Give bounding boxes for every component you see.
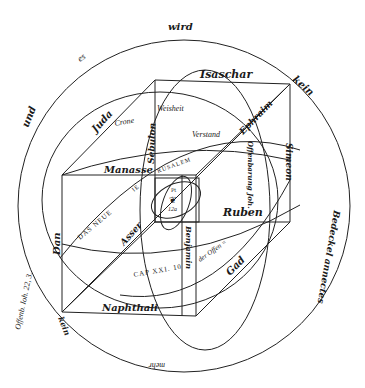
label-ruben: Ruben: [222, 206, 263, 219]
label-manasse: Manasse: [103, 164, 153, 175]
ring-word-kein-top: kein: [291, 73, 316, 97]
label-verstand: Verstand: [192, 130, 221, 139]
label-sebulon: Sebulon: [146, 123, 157, 164]
center-number: 12a: [168, 206, 177, 212]
ring-word-kein-bottom: kein: [56, 315, 73, 337]
label-cap-xxi: CAP XXI. 10: [133, 263, 183, 279]
center-square: [155, 178, 199, 222]
cube-edge-tl: [62, 80, 155, 175]
label-rusalem: RUSALEM: [156, 156, 192, 174]
center-symbol: ❦: [169, 195, 177, 205]
label-simeon: Simeon: [284, 143, 294, 181]
label-der-offen: der Offen =: [197, 238, 229, 264]
ring-word-bottom: mehr: [148, 361, 165, 370]
ring-word-right: Bedeckel annectes: [316, 209, 342, 305]
label-isaschar: Isaschar: [199, 68, 253, 81]
center-top-label: Pt: [171, 187, 176, 193]
label-weisheit: Weisheit: [157, 104, 185, 113]
ring-word-es: es: [75, 51, 87, 64]
ring-word-top: wird: [168, 21, 193, 32]
label-das-neue: DAS NEUE: [76, 208, 114, 241]
ring-word-und: und: [20, 105, 38, 129]
arc-lower: [120, 180, 290, 297]
new-jerusalem-diagram: Pt ❦ 12a wird es und kein Bedeckel annec…: [0, 0, 365, 388]
cube-edge-br: [196, 222, 290, 316]
label-ephraim: Ephraim: [237, 98, 275, 137]
arc-dan: [62, 205, 300, 254]
label-benjamin: Benjamin: [184, 225, 194, 269]
label-ie: IE: [131, 183, 141, 193]
ring-word-left: Offenb. Ioh. 22, 3.: [13, 271, 34, 330]
label-dan: Dan: [51, 233, 62, 256]
label-offenbarung: Offenbarung Joh.: [246, 141, 255, 209]
label-naphthali: Naphthali: [101, 302, 158, 313]
label-crone: Crone: [114, 116, 135, 128]
label-gad: Gad: [224, 254, 247, 277]
